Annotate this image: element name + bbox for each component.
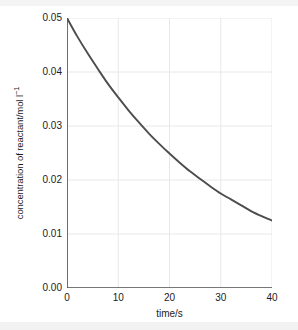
x-tick-label: 10 — [103, 292, 133, 303]
x-tick-label: 20 — [155, 292, 185, 303]
plot-svg — [67, 18, 272, 288]
x-tick-label: 0 — [52, 292, 82, 303]
y-tick-labels: 0.000.010.020.030.040.05 — [26, 0, 62, 330]
y-axis-label-superscript: −1 — [12, 87, 21, 95]
y-tick-label: 0.04 — [28, 66, 62, 77]
chart-figure: concentration of reactant/mol l−1 0.000.… — [0, 0, 298, 330]
x-tick-label: 40 — [257, 292, 287, 303]
plot-area — [67, 18, 272, 288]
y-tick-label: 0.01 — [28, 228, 62, 239]
y-axis-label-text: concentration of reactant/mol l — [14, 95, 25, 219]
x-axis-label: time/s — [67, 308, 272, 319]
y-tick-label: 0.02 — [28, 174, 62, 185]
y-tick-label: 0.03 — [28, 120, 62, 131]
x-tick-label: 30 — [206, 292, 236, 303]
y-tick-label: 0.05 — [28, 12, 62, 23]
